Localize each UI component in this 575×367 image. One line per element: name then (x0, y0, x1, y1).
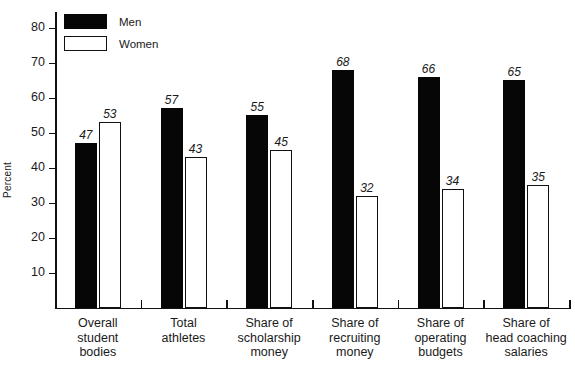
bar-men: 47 (75, 143, 97, 307)
y-tick: 30 (49, 203, 56, 205)
y-tick: 80 (49, 28, 56, 30)
y-tick-label: 60 (31, 90, 45, 104)
chart-legend: Men Women (64, 14, 158, 58)
bar-value-label: 43 (189, 142, 202, 156)
bar-women: 32 (356, 196, 378, 308)
bar-men: 65 (503, 80, 525, 307)
bar-value-label: 45 (274, 135, 287, 149)
bar-value-label: 55 (250, 100, 263, 114)
x-tick (569, 300, 571, 309)
bar-men: 55 (246, 115, 268, 307)
x-tick (398, 300, 400, 309)
bar-women: 43 (185, 157, 207, 307)
bar-chart: Percent 1020304050607080 475357435545683… (0, 0, 575, 367)
y-tick: 50 (49, 133, 56, 135)
y-tick: 60 (49, 98, 56, 100)
bar-women: 45 (270, 150, 292, 307)
y-tick-label: 50 (31, 125, 45, 139)
bar-value-label: 65 (507, 65, 520, 79)
bar-value-label: 53 (103, 107, 116, 121)
bar-value-label: 68 (336, 55, 349, 69)
bar-men: 68 (332, 70, 354, 308)
y-axis-line (55, 12, 57, 309)
y-tick-label: 70 (31, 55, 45, 69)
legend-label-men: Men (119, 16, 141, 28)
y-tick: 20 (49, 238, 56, 240)
y-tick-label: 10 (31, 265, 45, 279)
bar-value-label: 32 (360, 181, 373, 195)
bar-men: 57 (161, 108, 183, 307)
bar-value-label: 57 (165, 93, 178, 107)
bar-value-label: 47 (79, 128, 92, 142)
bar-value-label: 34 (446, 174, 459, 188)
bar-value-label: 35 (531, 170, 544, 184)
bar-women: 35 (527, 185, 549, 307)
bar-women: 34 (442, 189, 464, 308)
bar-men: 66 (418, 77, 440, 308)
legend-swatch-men-icon (64, 14, 107, 29)
legend-item-women: Women (64, 36, 158, 51)
y-axis-title: Percent (2, 120, 13, 240)
legend-swatch-women-icon (64, 36, 107, 51)
y-tick: 10 (49, 273, 56, 275)
y-tick-label: 80 (31, 20, 45, 34)
y-tick-label: 30 (31, 195, 45, 209)
legend-label-women: Women (119, 38, 158, 50)
bar-value-label: 66 (422, 62, 435, 76)
category-label: Share of head coaching salaries (475, 316, 575, 360)
y-tick-label: 20 (31, 230, 45, 244)
x-tick (141, 300, 143, 309)
x-tick (483, 300, 485, 309)
x-tick (55, 300, 57, 309)
y-tick: 40 (49, 168, 56, 170)
legend-item-men: Men (64, 14, 158, 29)
y-tick: 70 (49, 63, 56, 65)
x-tick (226, 300, 228, 309)
bar-women: 53 (99, 122, 121, 307)
x-tick (312, 300, 314, 309)
y-tick-label: 40 (31, 160, 45, 174)
